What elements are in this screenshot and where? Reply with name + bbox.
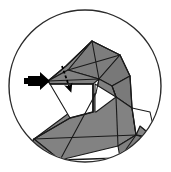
origami-diagram-svg: [0, 0, 171, 172]
push-arrow-tail: [24, 78, 29, 84]
origami-step-figure: Origami fold step diagram Circular inset…: [0, 0, 171, 172]
